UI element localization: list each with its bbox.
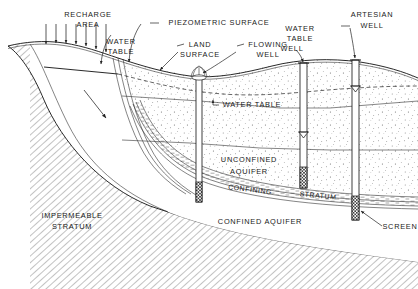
label-screen: SCREEN bbox=[382, 222, 417, 231]
label-artesian-well-line2: WELL bbox=[361, 21, 384, 30]
label-water-table-well-line3: WELL bbox=[281, 44, 304, 53]
water-table-well bbox=[298, 63, 309, 188]
label-unconfined-aquifer-line2: AQUIFER bbox=[230, 167, 268, 176]
groundwater-cross-section-figure: RECHARGE AREA WATER TABLE PIEZOMETRIC SU… bbox=[0, 0, 418, 289]
label-unconfined-aquifer-line1: UNCONFINED bbox=[221, 155, 277, 164]
water-table-well-screen bbox=[300, 167, 307, 188]
label-artesian-well-line1: ARTESIAN bbox=[351, 10, 393, 19]
unconfined-aquifer bbox=[120, 60, 418, 196]
flowing-well-screen bbox=[196, 182, 202, 202]
label-impermeable-stratum-line1: IMPERMEABLE bbox=[41, 211, 102, 220]
label-land-surface-line1: LAND bbox=[189, 40, 212, 49]
label-piezometric-surface: PIEZOMETRIC SURFACE bbox=[169, 18, 270, 27]
label-water-table-well-line2: TABLE bbox=[287, 34, 313, 43]
label-confined-aquifer: CONFINED AQUIFER bbox=[218, 217, 302, 226]
label-flowing-well-line2: WELL bbox=[257, 50, 280, 59]
artesian-well-screen bbox=[352, 196, 359, 220]
label-recharge-area-line2: AREA bbox=[77, 20, 100, 29]
label-water-table-left-line2: TABLE bbox=[108, 47, 134, 56]
label-land-surface-line2: SURFACE bbox=[180, 50, 220, 59]
artesian-well bbox=[350, 60, 361, 220]
label-impermeable-stratum-line2: STRATUM bbox=[52, 222, 92, 231]
label-recharge-area-line1: RECHARGE bbox=[64, 10, 112, 19]
label-water-table-mid: WATER TABLE bbox=[223, 100, 281, 109]
diagram-root: RECHARGE AREA WATER TABLE PIEZOMETRIC SU… bbox=[0, 0, 418, 289]
label-water-table-left-line1: WATER bbox=[106, 37, 135, 46]
groundwater-flow-arrow bbox=[84, 90, 106, 118]
flowing-well-spray bbox=[191, 66, 207, 80]
label-water-table-well-line1: WATER bbox=[285, 24, 314, 33]
